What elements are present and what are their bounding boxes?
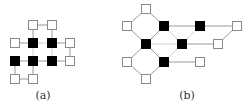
empty-node bbox=[123, 58, 132, 67]
diagram-b-nodes bbox=[123, 5, 242, 84]
empty-node bbox=[196, 58, 205, 67]
empty-node bbox=[142, 5, 151, 14]
filled-node bbox=[48, 57, 57, 66]
empty-node bbox=[66, 39, 75, 48]
empty-node bbox=[29, 75, 38, 84]
filled-node bbox=[29, 57, 38, 66]
filled-node bbox=[196, 22, 205, 31]
diagram-a bbox=[11, 21, 75, 84]
filled-node bbox=[11, 57, 20, 66]
empty-node bbox=[29, 21, 38, 30]
empty-node bbox=[66, 57, 75, 66]
filled-node bbox=[178, 40, 187, 49]
filled-node bbox=[160, 58, 169, 67]
caption-a: (a) bbox=[35, 89, 50, 102]
empty-node bbox=[233, 22, 242, 31]
diagram-a-edges bbox=[15, 25, 70, 79]
filled-node bbox=[142, 40, 151, 49]
empty-node bbox=[214, 40, 223, 49]
filled-node bbox=[29, 39, 38, 48]
diagram-a-nodes bbox=[11, 21, 75, 84]
filled-node bbox=[48, 39, 57, 48]
empty-node bbox=[11, 75, 20, 84]
empty-node bbox=[48, 21, 57, 30]
empty-node bbox=[142, 75, 151, 84]
diagram-b bbox=[123, 5, 242, 84]
caption-b: (b) bbox=[179, 89, 195, 102]
empty-node bbox=[123, 22, 132, 31]
filled-node bbox=[160, 22, 169, 31]
empty-node bbox=[11, 39, 20, 48]
